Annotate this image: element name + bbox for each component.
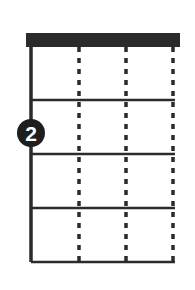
chord-fingering-diagram: 2 — [0, 0, 195, 290]
finger-marker-label: 2 — [25, 122, 37, 145]
finger-marker-2[interactable]: 2 — [17, 119, 45, 147]
nut-bar — [26, 33, 180, 47]
